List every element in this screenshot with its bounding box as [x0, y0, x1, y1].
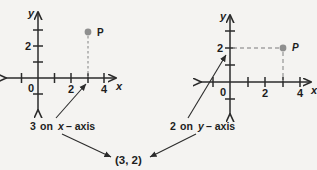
figure-canvas: y x 0 2 4 2 P: [0, 0, 317, 170]
coordinate-figure: y x 0 2 4 2 P: [0, 0, 317, 170]
left-callout-on: on: [40, 120, 53, 132]
left-callout-suffix: – axis: [66, 120, 95, 132]
right-result-arrow: [150, 134, 196, 157]
left-x-tick-2: 2: [68, 83, 74, 95]
right-y-tick-2: 2: [217, 42, 223, 54]
left-x-axis-label: x: [115, 80, 123, 92]
right-callout-axis-var: y: [197, 120, 205, 132]
right-plot-group: y x 0 2 4 2 P: [201, 10, 317, 114]
right-point-marker: [280, 45, 287, 52]
left-result-arrow: [62, 134, 111, 157]
right-callout-suffix: – axis: [206, 120, 235, 132]
result-coordinate-label: (3, 2): [115, 154, 142, 166]
left-callout-number: 3: [30, 120, 36, 132]
right-callout-number: 2: [170, 120, 176, 132]
right-y-axis-label: y: [219, 10, 227, 22]
right-callout-on: on: [180, 120, 193, 132]
right-x-axis-label: x: [310, 84, 317, 96]
left-point-marker: [85, 29, 92, 36]
right-callout-text-group: 2 on y – axis: [170, 120, 235, 132]
left-x-tick-4: 4: [101, 83, 108, 95]
left-point-label: P: [97, 27, 104, 38]
right-point-label: P: [292, 42, 299, 53]
right-origin-label: 0: [220, 86, 226, 98]
left-callout-text-group: 3 on x – axis: [30, 120, 95, 132]
left-origin-label: 0: [28, 82, 34, 94]
left-plot-group: y x 0 2 4 2 P: [6, 7, 123, 110]
left-callout-axis-var: x: [57, 120, 65, 132]
left-y-axis-label: y: [27, 7, 35, 19]
right-x-tick-4: 4: [297, 87, 304, 99]
right-x-tick-2: 2: [262, 87, 268, 99]
left-y-tick-2: 2: [25, 40, 31, 52]
